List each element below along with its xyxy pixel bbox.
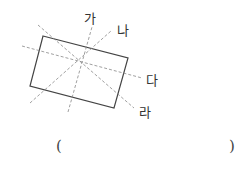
line-na <box>30 31 111 103</box>
line-da <box>22 46 142 78</box>
label-na: 나 <box>117 24 129 37</box>
answer-close-paren: ) <box>229 139 235 154</box>
label-ga: 가 <box>84 12 96 25</box>
answer-open-paren: ( <box>56 139 62 154</box>
label-ra: 라 <box>139 106 151 119</box>
label-da: 다 <box>146 74 158 87</box>
